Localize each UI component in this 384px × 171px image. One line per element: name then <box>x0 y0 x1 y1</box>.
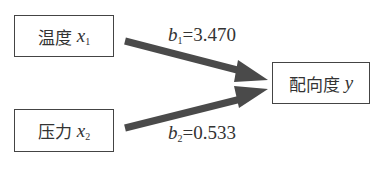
node-variable: x1 <box>77 25 90 47</box>
coefficient-b1: b1=3.470 <box>168 24 236 46</box>
node-label: 温度 <box>38 24 72 49</box>
coefficient-b2: b2=0.533 <box>168 122 236 144</box>
node-variable: x2 <box>77 120 90 142</box>
node-pressure-x2: 压力 x2 <box>14 109 114 152</box>
arrow-x1-to-y <box>125 41 268 82</box>
node-label: 压力 <box>38 118 72 143</box>
node-variable: y <box>345 72 353 94</box>
node-label: 配向度 <box>289 71 340 96</box>
node-temperature-x1: 温度 x1 <box>14 15 114 57</box>
node-orientation-y: 配向度 y <box>272 62 370 104</box>
